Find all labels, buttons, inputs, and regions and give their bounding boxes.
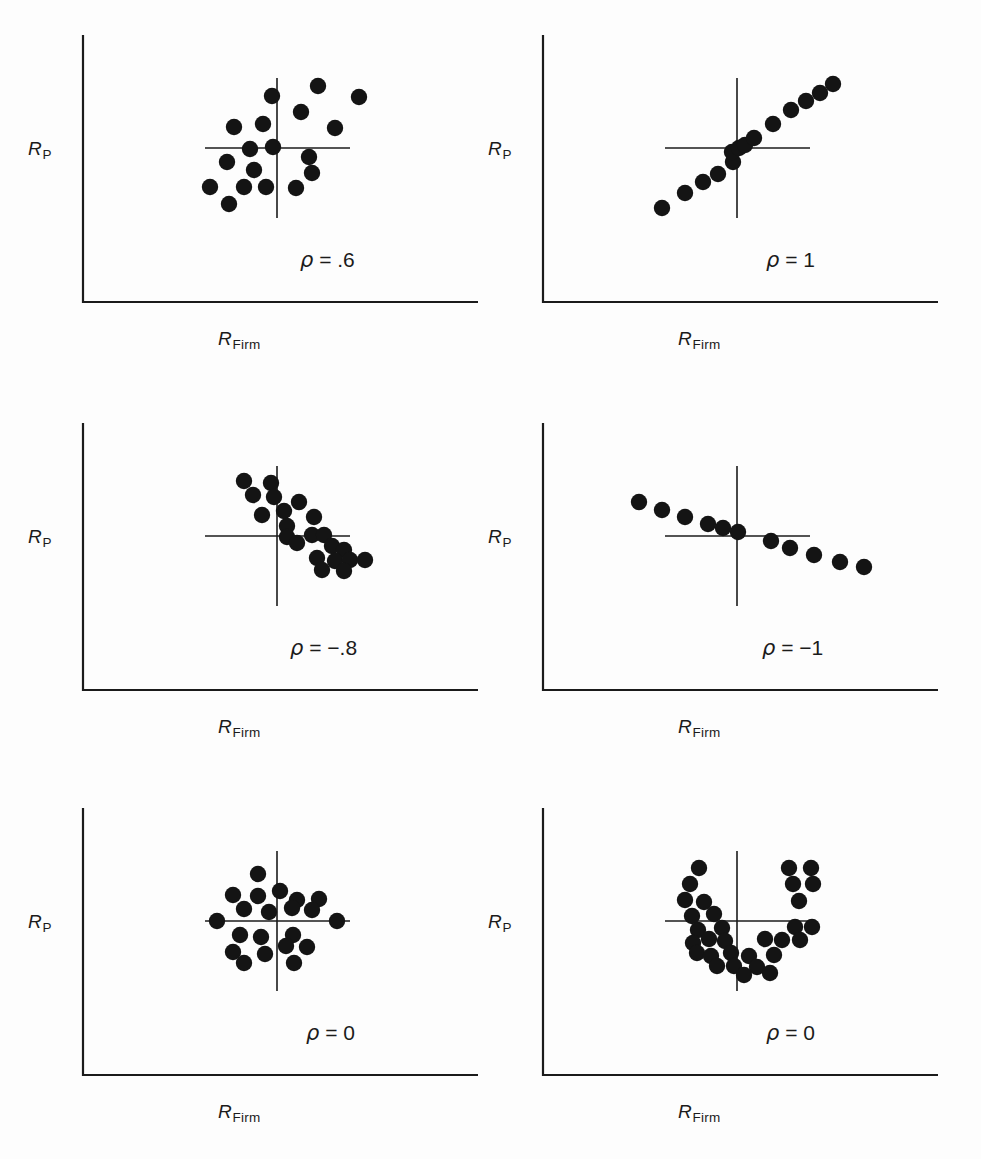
y-axis-label: RP [28,526,52,550]
rho-value: −.8 [327,636,357,659]
panel-rho-neg-1: RP RFirm ρ = −1 [482,398,942,738]
y-axis-label: RP [488,138,512,162]
rho-value: 1 [803,248,815,271]
rho-annotation: ρ = 1 [766,248,815,272]
rho-value: 0 [803,1021,815,1044]
rho-annotation: ρ = 0 [306,1021,355,1045]
scatter-points [631,494,872,575]
rho-annotation: ρ = −.8 [290,636,357,660]
x-axis-label: RFirm [218,1101,261,1125]
panel-plot-area [22,783,482,1123]
scatter-points [236,473,373,579]
panel-rho-0-u-shaped: RP RFirm ρ = 0 [482,783,942,1123]
axis-frame [83,423,478,690]
rho-annotation: ρ = −1 [762,636,823,660]
rho-value: 0 [343,1021,355,1044]
x-axis-label: RFirm [218,328,261,352]
scatter-points [654,76,841,216]
panel-plot-area [482,783,942,1123]
rho-annotation: ρ = .6 [300,248,355,272]
x-axis-label: RFirm [218,716,261,740]
axis-frame [543,35,938,302]
panel-rho-0-6: RP RFirm ρ = .6 [22,10,482,350]
y-axis-label: RP [28,138,52,162]
rho-value: −1 [799,636,823,659]
panel-rho-neg-0-8: RP RFirm ρ = −.8 [22,398,482,738]
axis-frame [83,35,478,302]
crosshair [205,851,350,991]
y-axis-label: RP [488,911,512,935]
panel-plot-area [22,10,482,350]
y-axis-label: RP [28,911,52,935]
panel-plot-area [482,398,942,738]
x-axis-label: RFirm [678,328,721,352]
x-axis-label: RFirm [678,1101,721,1125]
y-axis-label: RP [488,526,512,550]
scatter-points [202,78,367,212]
axis-frame [543,423,938,690]
panel-plot-area [22,398,482,738]
panel-rho-0-circular: RP RFirm ρ = 0 [22,783,482,1123]
panel-plot-area [482,10,942,350]
rho-value: .6 [337,248,355,271]
panel-rho-1: RP RFirm ρ = 1 [482,10,942,350]
figure-canvas: RP RFirm ρ = .6 [0,0,981,1159]
axis-frame [543,808,938,1075]
x-axis-label: RFirm [678,716,721,740]
rho-annotation: ρ = 0 [766,1021,815,1045]
